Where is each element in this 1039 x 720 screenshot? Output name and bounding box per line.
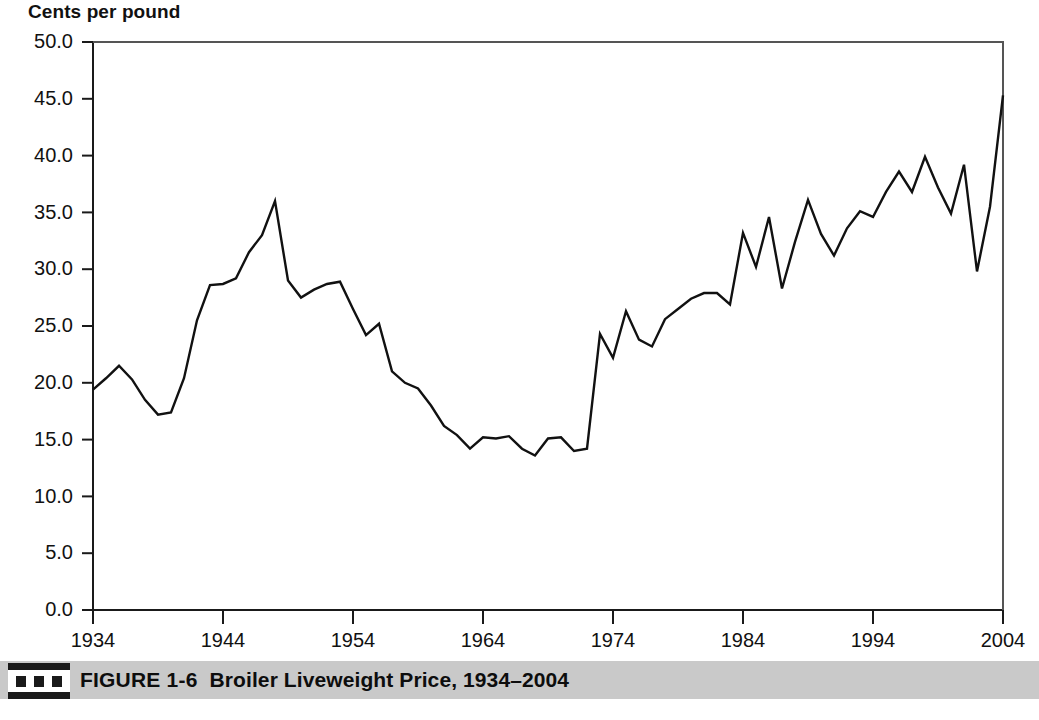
x-tick-label: 1974: [591, 629, 636, 651]
y-tick-label: 10.0: [34, 485, 73, 507]
y-tick-label: 25.0: [34, 314, 73, 336]
x-tick-label: 2004: [981, 629, 1026, 651]
data-line-broiler-liveweight-price: [93, 95, 1003, 455]
y-tick-label: 50.0: [34, 30, 73, 52]
figure-caption-text: FIGURE 1-6 Broiler Liveweight Price, 193…: [80, 661, 569, 699]
x-tick-label: 1954: [331, 629, 376, 651]
x-tick-label: 1964: [461, 629, 506, 651]
bullet-square: [16, 676, 26, 687]
y-tick-label: 0.0: [45, 598, 73, 620]
figure-title: Broiler Liveweight Price, 1934–2004: [210, 668, 570, 692]
figure-container: Cents per pound 0.05.010.015.020.025.030…: [0, 0, 1039, 720]
bullet-square: [34, 676, 44, 687]
bullet-square: [52, 676, 62, 687]
x-tick-label: 1944: [201, 629, 246, 651]
y-tick-label: 20.0: [34, 371, 73, 393]
y-tick-label: 30.0: [34, 257, 73, 279]
figure-number: FIGURE 1-6: [80, 668, 198, 692]
y-tick-label: 45.0: [34, 87, 73, 109]
x-tick-label: 1984: [721, 629, 766, 651]
y-axis-tick-labels: 0.05.010.015.020.025.030.035.040.045.050…: [34, 30, 73, 620]
data-series-group: [93, 95, 1003, 455]
x-axis-tick-labels: 19341944195419641974198419942004: [71, 629, 1026, 651]
y-tick-label: 15.0: [34, 428, 73, 450]
y-tick-label: 35.0: [34, 201, 73, 223]
y-axis-ticks: [82, 42, 93, 610]
chart-plot-area: 0.05.010.015.020.025.030.035.040.045.050…: [0, 0, 1039, 652]
line-chart-svg: 0.05.010.015.020.025.030.035.040.045.050…: [0, 0, 1039, 652]
x-axis-ticks: [93, 610, 1003, 624]
x-tick-label: 1934: [71, 629, 116, 651]
y-tick-label: 40.0: [34, 144, 73, 166]
x-tick-label: 1994: [851, 629, 896, 651]
three-squares-bullet-icon: [8, 663, 70, 699]
plot-frame: [93, 42, 1003, 610]
y-tick-label: 5.0: [45, 541, 73, 563]
